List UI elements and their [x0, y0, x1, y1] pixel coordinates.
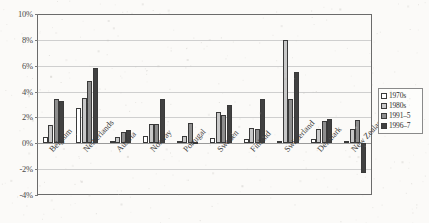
bar-group — [71, 14, 105, 195]
bar — [110, 141, 115, 144]
bar — [160, 99, 165, 143]
bar — [143, 136, 148, 144]
bar — [59, 101, 64, 144]
bar — [115, 137, 120, 143]
legend-item-label: 1996–7 — [389, 121, 410, 130]
y-axis: 10%8%6%4%2%0%-2%-4% — [0, 0, 36, 223]
bar — [294, 72, 299, 143]
bar-group — [238, 14, 272, 195]
bar — [327, 119, 332, 144]
bar — [121, 132, 126, 144]
legend-swatch-icon — [381, 103, 387, 109]
legend-swatch-icon — [381, 93, 387, 99]
bar-group — [138, 14, 172, 195]
bar — [244, 139, 249, 143]
bar — [283, 40, 288, 143]
legend-item-label: 1980s — [389, 101, 406, 110]
bar — [322, 121, 327, 143]
legend-swatch-icon — [381, 123, 387, 129]
bar — [249, 128, 254, 144]
y-axis-tick-label: -4% — [19, 190, 33, 200]
bar — [43, 137, 48, 143]
bar — [93, 68, 98, 143]
bar-group — [272, 14, 306, 195]
y-axis-tick-label: -2% — [19, 164, 33, 174]
bar-group — [339, 14, 373, 195]
bars-layer — [37, 14, 372, 195]
bar — [154, 124, 159, 143]
bar-group — [305, 14, 339, 195]
y-axis-tick-label: 10% — [18, 9, 33, 19]
bar — [87, 81, 92, 143]
y-axis-tick-label: 4% — [22, 87, 33, 97]
y-axis-tick-label: 8% — [22, 35, 33, 45]
bar-group — [37, 14, 71, 195]
bar — [288, 99, 293, 143]
bar — [76, 108, 81, 143]
legend-item: 1996–7 — [381, 121, 420, 130]
bar — [177, 141, 182, 144]
y-tick-mark — [35, 195, 38, 196]
bar — [126, 130, 131, 143]
bar — [221, 115, 226, 143]
bar-group — [104, 14, 138, 195]
bar-group — [205, 14, 239, 195]
y-axis-tick-label: 2% — [22, 112, 33, 122]
bar — [255, 129, 260, 143]
bar-group — [171, 14, 205, 195]
chart-legend: 1970s1980s1991–51996–7 — [378, 88, 423, 134]
bar — [355, 120, 360, 143]
legend-item: 1991–5 — [381, 111, 420, 120]
legend-item-label: 1991–5 — [389, 111, 410, 120]
bar — [361, 143, 366, 173]
bar — [216, 112, 221, 143]
bar — [260, 99, 265, 143]
bar — [48, 125, 53, 143]
y-axis-tick-label: 0% — [22, 138, 33, 148]
legend-item: 1970s — [381, 91, 420, 100]
bar — [82, 98, 87, 143]
bar — [350, 129, 355, 143]
bar — [54, 99, 59, 143]
chart-figure: 10%8%6%4%2%0%-2%-4% BelgiumNetherlandsAu… — [0, 0, 429, 223]
bar — [188, 123, 193, 144]
legend-item-label: 1970s — [389, 91, 406, 100]
bar — [311, 139, 316, 143]
bar — [149, 124, 154, 143]
bar — [193, 142, 198, 144]
bar — [316, 129, 321, 143]
bar — [182, 136, 187, 144]
bar — [210, 138, 215, 143]
y-axis-tick-label: 6% — [22, 61, 33, 71]
legend-swatch-icon — [381, 113, 387, 119]
bar — [227, 105, 232, 144]
legend-item: 1980s — [381, 101, 420, 110]
bar — [344, 141, 349, 144]
bar — [277, 141, 282, 144]
